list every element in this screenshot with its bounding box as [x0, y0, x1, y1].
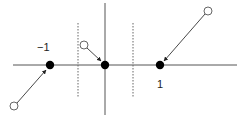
open-point-lower-left — [10, 102, 18, 110]
open-point-upper-right — [204, 7, 212, 15]
phase-diagram: −1 1 — [0, 0, 249, 119]
flow-arrow-to-origin — [87, 48, 101, 61]
fixed-point-neg-one — [46, 61, 54, 69]
label-pos-one: 1 — [157, 78, 163, 90]
fixed-point-origin — [101, 61, 109, 69]
open-point-upper-left — [80, 41, 88, 49]
label-neg-one: −1 — [37, 41, 50, 53]
fixed-point-pos-one — [156, 61, 164, 69]
flow-arrow-to-neg-one — [17, 70, 46, 103]
flow-arrow-to-pos-one — [164, 14, 205, 61]
